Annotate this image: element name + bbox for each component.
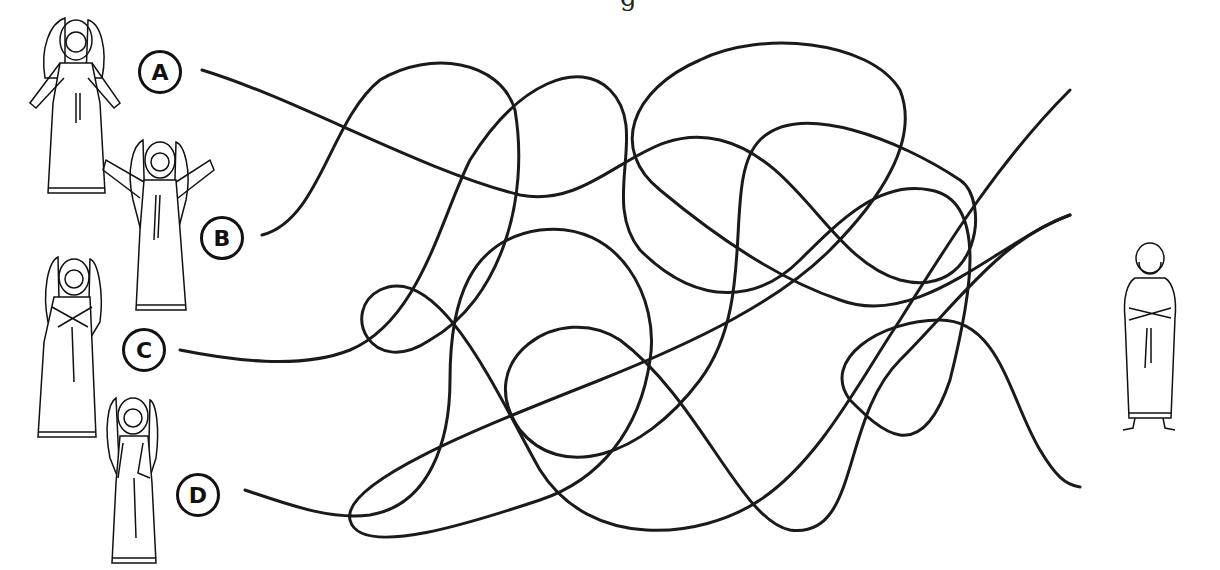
label-c: C: [122, 328, 166, 372]
line-a[interactable]: [202, 70, 1070, 531]
bearded-man-figure: [1115, 238, 1185, 433]
line-d[interactable]: [245, 43, 1070, 537]
label-a: A: [138, 50, 182, 94]
label-d: D: [176, 473, 220, 517]
angel-d-figure: [98, 388, 168, 568]
angel-b-figure: [98, 130, 218, 315]
line-b[interactable]: [262, 63, 1070, 530]
